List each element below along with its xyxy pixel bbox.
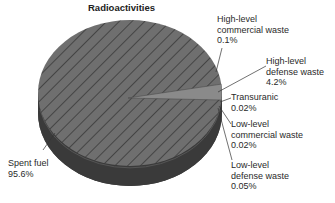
label-transuranic: Transuranic 0.02% bbox=[231, 92, 278, 113]
label-low-level-defense: Low-level defense waste 0.05% bbox=[231, 160, 289, 192]
label-high-level-commercial: High-level commercial waste 0.1% bbox=[217, 14, 289, 46]
label-spent-fuel: Spent fuel 95.6% bbox=[8, 158, 49, 179]
label-low-level-commercial: Low-level commercial waste 0.02% bbox=[231, 119, 303, 151]
label-high-level-defense: High-level defense waste 4.2% bbox=[266, 56, 324, 88]
